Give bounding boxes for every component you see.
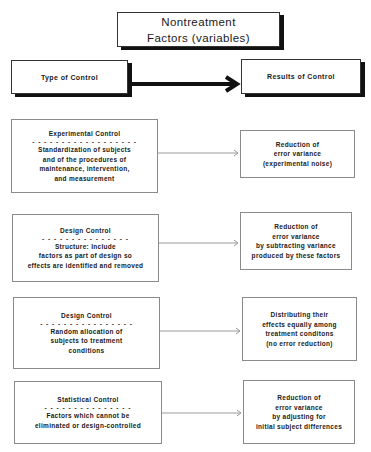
result-line: (no error reduction): [266, 339, 333, 349]
description-line: Factors which cannot be: [35, 411, 141, 421]
control-box-design-structure: Design Control - - - - - - - - - - - - -…: [12, 214, 159, 282]
result-line: Reduction of: [276, 140, 319, 150]
control-box-experimental: Experimental Control - - - - - - - - - -…: [11, 119, 158, 193]
description-line: maintenance, intervention,: [38, 164, 131, 174]
title-line-2: Factors (variables): [147, 30, 250, 46]
result-line: treatment conditons: [265, 329, 333, 339]
result-box-2: Reduction of error variance by subtracti…: [240, 212, 352, 270]
description-line: and measurement: [38, 174, 131, 184]
description-line: Standardization of subjects: [38, 145, 131, 155]
description-line: subjects to treatment: [50, 336, 122, 346]
title-line-1: Nontreatment: [161, 14, 235, 30]
result-line: error variance: [275, 403, 323, 413]
description-line: Structure: Include: [28, 242, 144, 252]
row-arrow-3: [160, 328, 240, 334]
result-box-3: Distributing their effects equally among…: [242, 297, 357, 361]
description-line: conditions: [50, 346, 122, 356]
control-description: Factors which cannot be eliminated or de…: [35, 411, 141, 430]
title-box: Nontreatment Factors (variables): [117, 12, 280, 47]
result-line: initial subject differences: [256, 422, 342, 432]
result-line: error variance: [274, 149, 322, 159]
description-line: factors as part of design so: [28, 251, 144, 261]
control-box-design-random: Design Control - - - - - - - - - - - - -…: [13, 297, 160, 369]
result-line: Reduction of: [274, 222, 317, 232]
result-line: by adjusting for: [272, 412, 326, 422]
results-of-control-header: Results of Control: [241, 59, 361, 94]
description-line: eliminated or design-controlled: [35, 421, 141, 431]
description-line: effects are identified and removed: [28, 261, 144, 271]
header-arrow: [130, 77, 237, 91]
description-line: Random allocation of: [50, 327, 122, 337]
control-box-statistical: Statistical Control - - - - - - - - - - …: [14, 381, 162, 444]
result-line: error variance: [272, 232, 320, 242]
result-line: produced by these factors: [252, 251, 341, 261]
control-description: Random allocation of subjects to treatme…: [50, 327, 122, 356]
row-arrow-4: [162, 410, 241, 416]
control-description: Structure: Include factors as part of de…: [28, 242, 144, 271]
result-line: Distributing their: [271, 310, 329, 320]
result-line: Reduction of: [277, 393, 320, 403]
result-box-1: Reduction of error variance (experimenta…: [240, 130, 355, 178]
description-line: and of the procedures of: [38, 155, 131, 165]
control-description: Standardization of subjects and of the p…: [38, 145, 131, 183]
row-arrow-1: [158, 150, 238, 156]
result-line: by subtracting variance: [256, 241, 336, 251]
row-arrow-2: [158, 240, 238, 246]
result-line: (experimental noise): [263, 159, 332, 169]
results-of-control-label: Results of Control: [267, 73, 335, 80]
result-line: effects equally among: [262, 320, 337, 330]
type-of-control-header: Type of Control: [11, 60, 128, 94]
type-of-control-label: Type of Control: [41, 74, 98, 81]
result-box-4: Reduction of error variance by adjusting…: [243, 380, 355, 444]
